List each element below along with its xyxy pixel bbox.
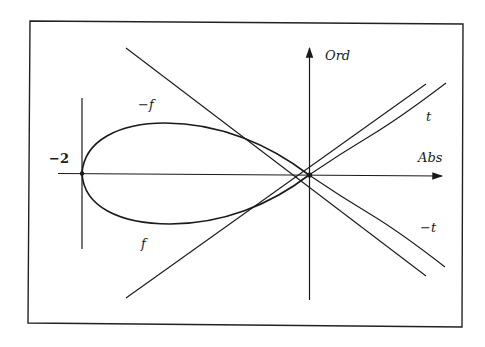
curve-f <box>82 174 309 225</box>
curve-minus-f <box>82 123 309 175</box>
label-minus-t: −t <box>420 220 437 235</box>
point-minus-two <box>80 171 84 175</box>
label-minus-f: −f <box>138 97 156 112</box>
figure: Ord Abs t −t −f f −2 <box>0 0 485 347</box>
point-origin <box>307 172 312 177</box>
label-abs: Abs <box>417 150 443 165</box>
x-axis <box>58 174 442 177</box>
label-minus-two: −2 <box>49 151 69 166</box>
tangent-line-descending <box>126 48 426 276</box>
label-t: t <box>426 109 432 124</box>
label-ord: Ord <box>325 48 350 63</box>
tangent-line-ascending <box>126 84 426 298</box>
label-f: f <box>140 236 148 251</box>
plot-canvas: Ord Abs t −t −f f −2 <box>0 0 485 347</box>
